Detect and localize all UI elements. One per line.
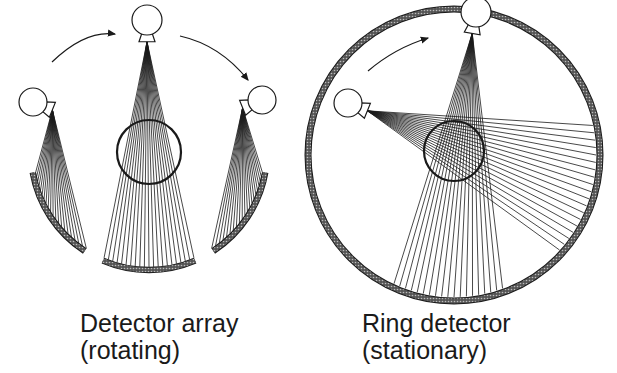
ring-detector-panel	[308, 0, 600, 301]
caption-rotating-sub: (rotating)	[80, 337, 238, 364]
xray-tube-icon	[19, 88, 47, 116]
rotating-detector-panel	[19, 5, 276, 270]
xray-tube	[240, 86, 276, 115]
caption-stationary: Ring detector (stationary)	[362, 310, 511, 364]
patient-cross-section	[117, 120, 181, 184]
xray-tube	[19, 88, 55, 117]
xray-tube	[132, 5, 162, 42]
xray-tube-icon	[334, 89, 362, 117]
xray-tube-icon	[248, 86, 276, 114]
caption-stationary-sub: (stationary)	[362, 337, 511, 364]
detector-array	[213, 172, 265, 250]
rotation-arrow-icon	[52, 34, 115, 62]
xray-tube-icon	[132, 5, 162, 35]
detector-array	[33, 172, 85, 250]
xray-tube	[461, 0, 491, 35]
xray-tube	[334, 89, 370, 118]
caption-rotating-title: Detector array	[80, 310, 238, 337]
rotation-arrow-icon	[368, 38, 428, 71]
caption-rotating: Detector array (rotating)	[80, 310, 238, 364]
rotation-arrow-icon	[180, 36, 248, 80]
xray-tube-icon	[461, 0, 491, 27]
caption-stationary-title: Ring detector	[362, 310, 511, 337]
